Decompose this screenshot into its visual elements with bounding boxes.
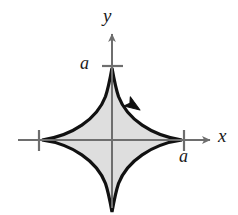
y-axis-label: y [103,6,111,25]
y-tick-label-a: a [80,54,89,72]
x-axis-label: x [218,126,226,145]
figure-canvas [0,0,238,215]
astroid-figure: y x a a [0,0,238,215]
x-tick-label-a: a [179,147,188,165]
